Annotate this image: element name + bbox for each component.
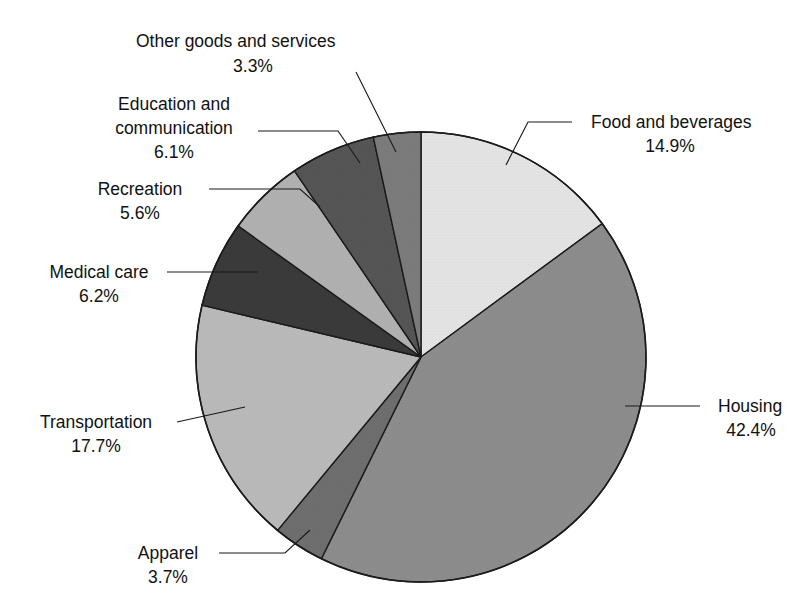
callout-transportation: Transportation 17.7% xyxy=(40,412,152,456)
callout-medical-value: 6.2% xyxy=(79,286,119,306)
callout-other-goods-label: Other goods and services xyxy=(136,31,336,51)
callout-apparel-value: 3.7% xyxy=(148,567,188,587)
pie-chart-figure: Other goods and services 3.3% Education … xyxy=(0,0,806,616)
callout-education-value: 6.1% xyxy=(154,142,194,162)
callout-food-and-beverages: Food and beverages 14.9% xyxy=(591,112,752,156)
callout-other-goods-value: 3.3% xyxy=(233,56,273,76)
callout-apparel: Apparel 3.7% xyxy=(138,543,198,587)
callout-education-and-communication: Education and communication 6.1% xyxy=(115,94,233,162)
callout-recreation-value: 5.6% xyxy=(120,203,160,223)
callout-transportation-label: Transportation xyxy=(40,412,152,432)
callout-other-goods-and-services: Other goods and services 3.3% xyxy=(136,31,336,76)
callout-housing-value: 42.4% xyxy=(726,420,776,440)
callout-medical-label: Medical care xyxy=(49,262,148,282)
callout-housing-label: Housing xyxy=(718,396,782,416)
callout-housing: Housing 42.4% xyxy=(718,396,782,440)
pie-chart-svg: Other goods and services 3.3% Education … xyxy=(0,0,806,616)
callout-education-label-line1: Education and xyxy=(118,94,230,114)
callout-medical-care: Medical care 6.2% xyxy=(49,262,148,306)
halftone-texture-overlay xyxy=(197,133,645,581)
callout-recreation: Recreation 5.6% xyxy=(98,179,183,223)
callout-transportation-value: 17.7% xyxy=(71,436,121,456)
callout-food-label: Food and beverages xyxy=(591,112,752,132)
callout-recreation-label: Recreation xyxy=(98,179,183,199)
callout-education-label-line2: communication xyxy=(115,118,233,138)
callout-apparel-label: Apparel xyxy=(138,543,198,563)
callout-food-value: 14.9% xyxy=(645,136,695,156)
